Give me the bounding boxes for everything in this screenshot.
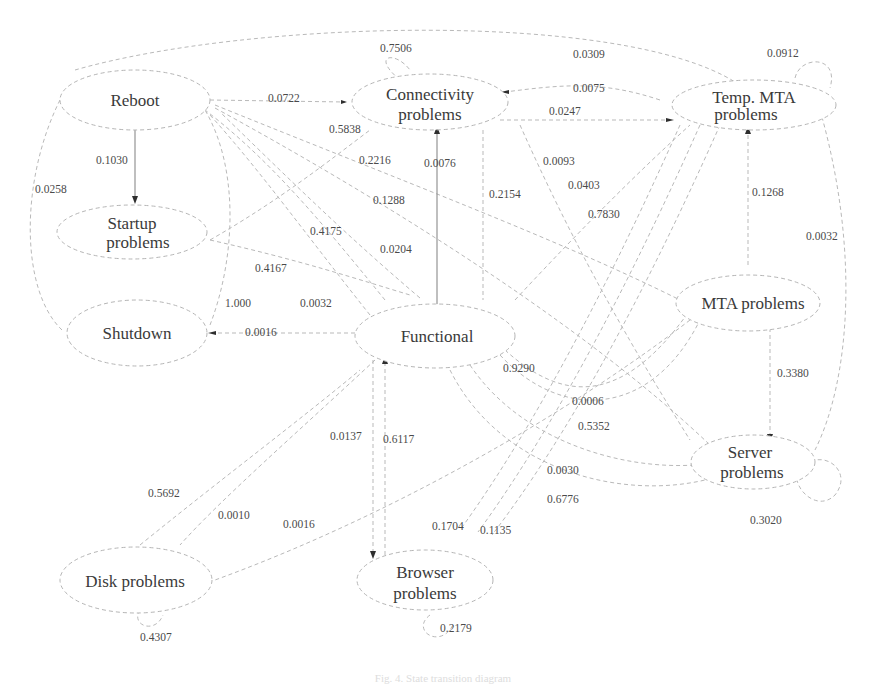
arrow-icon [208, 331, 216, 335]
edge-reboot-shutdown [30, 100, 62, 330]
edge-reboot-func [205, 110, 385, 300]
edge-label: 0.0309 [573, 48, 605, 60]
node-temp-mta-problems: Temp. MTA problems [672, 80, 836, 130]
edge-label: 0.7830 [588, 208, 620, 220]
edge-label: 0.0722 [268, 92, 300, 104]
node-shutdown: Shutdown [67, 300, 207, 366]
node-reboot: Reboot [60, 70, 210, 130]
edge-disk-func [140, 370, 360, 545]
edge-label: 0.1268 [752, 186, 784, 198]
edge-label: 0.4167 [255, 262, 287, 274]
node-label: Disk problems [85, 572, 185, 591]
edge-label: 0.2154 [489, 188, 521, 200]
edge-label: 0.5838 [329, 123, 361, 135]
edge-label: 0.0912 [767, 47, 799, 59]
node-label: Browser [396, 563, 454, 582]
node-label: Startup [107, 214, 156, 233]
node-label: Connectivity [386, 85, 474, 104]
edge-label: 0.3380 [777, 367, 809, 379]
node-mta-problems: MTA problems [676, 275, 820, 331]
edge-label: 0.9290 [503, 362, 535, 374]
edge-label: 1.000 [225, 297, 251, 309]
edge-func-reboot [210, 115, 370, 315]
node-label: problems [398, 105, 461, 124]
arrow-icon [370, 551, 376, 559]
edge-conn-server [520, 125, 690, 440]
edge-func-mta [505, 310, 690, 387]
edge-label: 0.6117 [383, 433, 414, 445]
edge-label: 0.0204 [380, 243, 412, 255]
edge-label: 0.7506 [380, 42, 412, 54]
edge-label: 0.0030 [547, 464, 579, 476]
edge-label: 0.1704 [432, 520, 464, 532]
edge-label: 0.5692 [148, 487, 180, 499]
node-connectivity-problems: Connectivity problems [352, 74, 508, 130]
node-label: problems [720, 463, 783, 482]
arrow-icon [341, 100, 347, 104]
edge-label: 0.5352 [578, 420, 610, 432]
node-label: Reboot [110, 91, 159, 110]
edge-label: 0.0258 [35, 183, 67, 195]
node-functional: Functional [355, 304, 515, 368]
edge-label: 0.0006 [572, 395, 604, 407]
node-label: Shutdown [103, 324, 172, 343]
edge-label: 0.0010 [218, 509, 250, 521]
node-label: problems [714, 105, 777, 124]
edge-label: 0.0137 [330, 430, 362, 442]
edge-label: 0.0016 [283, 518, 315, 530]
figure-caption: Fig. 4. State transition diagram [0, 672, 886, 684]
edge-mta-func [500, 320, 700, 400]
edge-label: 0.1288 [373, 194, 405, 206]
node-server-problems: Server problems [691, 435, 815, 489]
edge-temp-server [815, 110, 846, 450]
edge-func-disk [180, 360, 375, 545]
edge-label: 0.1135 [480, 524, 511, 536]
node-disk-problems: Disk problems [60, 547, 212, 613]
edge-label: 0.0076 [424, 157, 456, 169]
node-label: problems [393, 584, 456, 603]
node-browser-problems: Browser problems [357, 550, 493, 610]
edge-reboot-server [215, 108, 710, 445]
edge-label: 0.6776 [547, 493, 579, 505]
edge-label: 0.0247 [549, 105, 581, 117]
edge-label: 0.0075 [573, 82, 605, 94]
edge-func-server [470, 365, 695, 466]
node-label: Server [728, 443, 773, 462]
edge-label: 0.4175 [310, 225, 342, 237]
edge-label: 0.0032 [806, 230, 838, 242]
node-label: problems [106, 233, 169, 252]
edge-label: 0.3020 [750, 514, 782, 526]
edge-label: 0.2179 [440, 622, 472, 634]
edge-label: 0.0016 [245, 326, 277, 338]
node-label: MTA problems [702, 294, 805, 313]
arrow-icon [132, 196, 138, 204]
edge-label: 0.4307 [140, 631, 172, 643]
edge-shutdown-reboot [205, 110, 230, 325]
arrow-icon [666, 118, 674, 122]
edge-label: 0.0093 [543, 155, 575, 167]
edge-label: 0.0403 [568, 179, 600, 191]
edge-label: 0.0032 [300, 297, 332, 309]
edge-browser-temp2 [492, 125, 720, 535]
edge-label: 0.1030 [96, 154, 128, 166]
node-startup-problems: Startup problems [57, 205, 207, 259]
node-label: Functional [401, 327, 474, 346]
edge-startup-conn [210, 130, 370, 240]
edge-label: 0.2216 [359, 154, 391, 166]
